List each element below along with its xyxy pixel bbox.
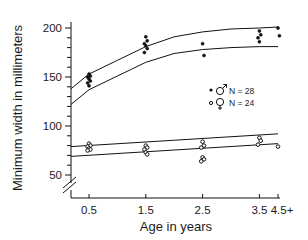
x-tick-label: 3.5 [251,204,267,216]
y-tick-label: 50 [49,169,62,181]
female-symbol-icon [216,98,223,110]
male-data-point [257,36,260,39]
y-axis: 50100150200 [43,22,76,198]
female-data-point [276,145,280,149]
male-symbol-icon [216,85,226,95]
legend-female-marker [209,101,212,104]
male-data-point [146,47,149,50]
male-data-point [258,40,261,43]
male-data-point [258,29,261,32]
legend: N = 28 N = 24 [209,85,254,111]
x-tick-label: 2.5 [195,204,211,216]
x-tick-label: 0.5 [81,204,97,216]
male-data-point [143,51,146,54]
male-data-point [203,54,206,57]
legend-female-label: N = 24 [229,98,255,108]
male-data-point [144,44,147,47]
male-data-point [86,81,89,84]
female-data-point [256,143,260,147]
male-data-point [201,42,204,45]
curve-female-upper [71,134,278,147]
female-data-point [259,139,263,143]
male-data-point [277,27,280,30]
axis-break-icon [63,177,76,193]
male-data-point [144,35,147,38]
curve-male-upper [71,27,278,89]
male-data-point [259,33,262,36]
female-data-point [199,159,203,163]
x-tick-label: 1.5 [138,204,154,216]
male-data-point [88,84,91,87]
male-data-point [278,34,281,37]
female-data-point [201,140,205,144]
x-tick-label: 4.5+ [271,204,294,216]
female-data-point [86,149,90,153]
x-axis-title: Age in years [140,219,213,234]
y-tick-label: 150 [43,71,62,83]
curve-female-lower [71,144,278,157]
age-width-chart: 50100150200 0.51.52.53.54.5+ N = 28 N = … [0,0,308,240]
male-data-point [146,39,149,42]
female-data-point [145,153,149,157]
y-axis-title: Minimum width in millimeters [10,24,25,191]
female-data-point [199,146,203,150]
legend-male-label: N = 28 [229,86,255,96]
x-axis: 0.51.52.53.54.5+ [71,194,294,216]
y-tick-label: 200 [43,22,62,34]
y-tick-label: 100 [43,120,62,132]
legend-male-marker [209,88,212,91]
male-data-point [89,79,92,82]
